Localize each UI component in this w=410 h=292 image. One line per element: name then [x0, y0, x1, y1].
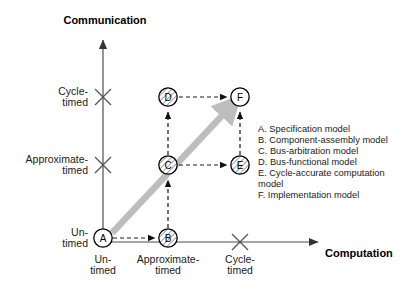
x-axis-title: Computation — [325, 247, 393, 259]
legend-item-d: D. Bus-functional model — [258, 157, 357, 167]
node-c[interactable]: C — [159, 156, 177, 174]
node-e-label: E — [237, 160, 244, 171]
legend-item-e: E. Cycle-accurate computation — [258, 168, 385, 178]
legend-item-b: B. Component-assembly model — [258, 135, 388, 145]
legend: A. Specification model B. Component-asse… — [258, 124, 388, 200]
svg-text:timed: timed — [62, 96, 88, 108]
y-tick-label-untimed: Un- timed — [62, 226, 88, 249]
x-tick-label-approximate-timed: Approximate- timed — [137, 253, 200, 276]
model-space-diagram: A B C D E F Communication Computation Cy… — [0, 0, 410, 292]
legend-item-f: F. Implementation model — [258, 190, 359, 200]
node-f[interactable]: F — [231, 88, 249, 106]
y-tick-label-approximate-timed: Approximate- timed — [26, 153, 89, 176]
svg-text:timed: timed — [227, 264, 253, 276]
node-c-label: C — [164, 160, 171, 171]
svg-text:timed: timed — [90, 264, 116, 276]
diagram-canvas: A B C D E F Communication Computation Cy… — [0, 0, 410, 292]
legend-item-c: C. Bus-arbitration model — [258, 146, 358, 156]
svg-text:timed: timed — [62, 164, 88, 176]
svg-text:timed: timed — [62, 237, 88, 249]
x-tick-label-cycle-timed: Cycle- timed — [225, 253, 255, 276]
node-b[interactable]: B — [159, 229, 177, 247]
y-axis-title: Communication — [63, 14, 146, 26]
node-d-label: D — [164, 92, 171, 103]
node-a[interactable]: A — [94, 229, 112, 247]
y-tick-label-cycle-timed: Cycle- timed — [58, 85, 88, 108]
node-e[interactable]: E — [231, 156, 249, 174]
node-a-label: A — [100, 233, 107, 244]
legend-item-e-cont: model — [258, 179, 283, 189]
node-d[interactable]: D — [159, 88, 177, 106]
node-f-label: F — [237, 92, 243, 103]
svg-text:timed: timed — [155, 264, 181, 276]
node-b-label: B — [165, 233, 172, 244]
x-tick-label-untimed: Un- timed — [90, 253, 116, 276]
legend-item-a: A. Specification model — [258, 124, 350, 134]
